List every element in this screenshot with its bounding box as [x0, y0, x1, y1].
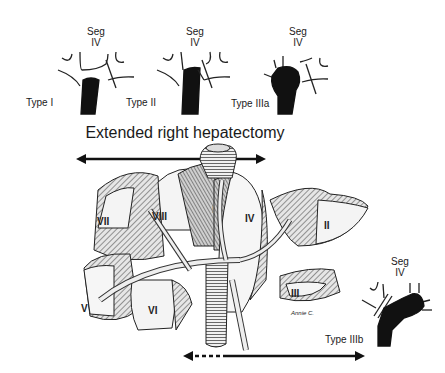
type-iiib-label: Type IIIb: [325, 334, 363, 345]
segment-iv-label: IV: [245, 213, 254, 224]
artist-signature: Annie C.: [291, 310, 314, 316]
type-iiia-label: Type IIIa: [231, 98, 269, 109]
bottom-resection-arrow: [183, 351, 365, 361]
type-i-bile-duct-icon: [58, 52, 134, 114]
type-i-label: Type I: [26, 97, 53, 108]
type-iiia-bile-duct-icon: [264, 56, 328, 114]
extended-right-hepatectomy-arrow: [76, 154, 266, 164]
type-ii-bile-duct-icon: [157, 52, 230, 114]
diagram-canvas: [0, 0, 445, 373]
procedure-title: Extended right hepatectomy: [70, 124, 300, 142]
segment-vi-label: V: [81, 303, 88, 314]
segment-ii-label: II: [324, 220, 330, 231]
type-i-seg-label: SegIV: [81, 26, 111, 48]
liver-illustration: [84, 144, 368, 350]
type-ii-seg-label: SegIV: [180, 26, 210, 48]
type-iiia-seg-label: SegIV: [283, 26, 313, 48]
segment-vii-label: VII: [97, 216, 109, 227]
segment-v-label: VI: [148, 305, 157, 316]
segment-viii-label: VIII: [152, 211, 167, 222]
segment-iii-label: III: [291, 288, 299, 299]
type-ii-label: Type II: [126, 97, 156, 108]
type-iiib-seg-label: SegIV: [385, 256, 415, 278]
segment-i-label: I: [212, 204, 215, 215]
type-iiib-bile-duct-icon: [362, 282, 432, 346]
